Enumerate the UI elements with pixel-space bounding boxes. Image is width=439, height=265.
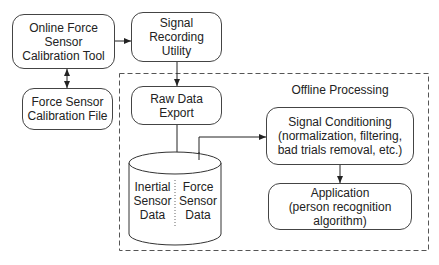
group-label: Offline Processing <box>280 83 400 97</box>
node-raw-data-export: Raw Data Export <box>131 86 222 125</box>
node-calibration-tool: Online Force Sensor Calibration Tool <box>12 14 115 69</box>
node-application: Application (person recognition algorith… <box>268 183 412 230</box>
node-signal-conditioning: Signal Conditioning (normalization, filt… <box>266 107 414 165</box>
db-right-label: Force Sensor Data <box>175 180 221 222</box>
node-calibration-file: Force Sensor Calibration File <box>22 88 113 130</box>
db-left-label: Inertial Sensor Data <box>130 180 175 222</box>
node-signal-recording: Signal Recording Utility <box>131 12 222 62</box>
